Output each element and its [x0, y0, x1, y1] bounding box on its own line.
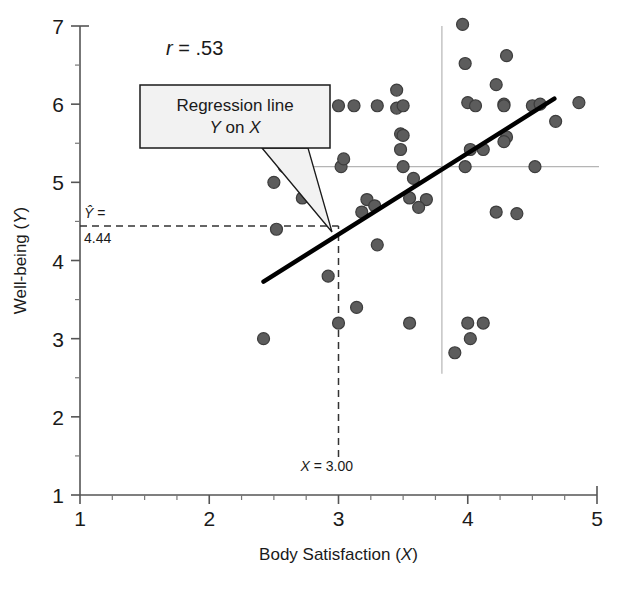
- callout-box: [140, 85, 330, 148]
- callout-label-line2: Y on X: [209, 118, 261, 137]
- data-point: [413, 201, 425, 213]
- scatter-plot: 123451234567Body Satisfaction (X)Well-be…: [0, 0, 625, 589]
- data-point: [348, 100, 360, 112]
- data-point: [322, 270, 334, 282]
- data-point: [470, 100, 482, 112]
- y-tick-label-3: 3: [52, 328, 64, 351]
- figure-container: 123451234567Body Satisfaction (X)Well-be…: [0, 0, 625, 589]
- data-point: [449, 347, 461, 359]
- callout-label-line1: Regression line: [176, 96, 293, 115]
- data-point: [498, 100, 510, 112]
- data-point: [397, 100, 409, 112]
- data-point: [397, 129, 409, 141]
- data-point: [351, 301, 363, 313]
- data-point: [511, 208, 523, 220]
- callout-pointer: [262, 148, 332, 232]
- x-tick-label-1: 1: [74, 507, 86, 530]
- y-tick-label-1: 1: [52, 484, 64, 507]
- correlation-label: r = .53: [166, 37, 223, 59]
- data-point: [404, 317, 416, 329]
- predicted-y-value-label: 4.44: [84, 230, 111, 246]
- x-axis-title: Body Satisfaction (X): [259, 545, 418, 564]
- x-tick-label-5: 5: [591, 507, 603, 530]
- y-tick-label-7: 7: [52, 15, 64, 38]
- data-point: [459, 161, 471, 173]
- data-point: [459, 58, 471, 70]
- data-point: [490, 79, 502, 91]
- data-point: [371, 239, 383, 251]
- data-point: [501, 50, 513, 62]
- data-point: [498, 136, 510, 148]
- data-point: [338, 153, 350, 165]
- data-point: [333, 100, 345, 112]
- y-tick-label-4: 4: [52, 250, 64, 273]
- x-axis-variable: X: [400, 545, 413, 564]
- correlation-symbol: r: [166, 37, 174, 59]
- x-tick-label-4: 4: [462, 507, 474, 530]
- data-point: [395, 144, 407, 156]
- data-point: [573, 97, 585, 109]
- data-point: [371, 100, 383, 112]
- data-point: [477, 317, 489, 329]
- given-x-label: X = 3.00: [300, 458, 354, 474]
- data-point: [462, 317, 474, 329]
- y-axis-title: Well-being (Y): [11, 207, 30, 314]
- data-point: [258, 333, 270, 345]
- data-point: [490, 206, 502, 218]
- data-point: [268, 176, 280, 188]
- data-point: [529, 161, 541, 173]
- y-tick-label-5: 5: [52, 171, 64, 194]
- data-point: [397, 161, 409, 173]
- data-point: [270, 223, 282, 235]
- data-point: [391, 84, 403, 96]
- y-tick-label-6: 6: [52, 93, 64, 116]
- data-point: [333, 317, 345, 329]
- data-point: [457, 18, 469, 30]
- y-tick-label-2: 2: [52, 406, 64, 429]
- data-point: [464, 333, 476, 345]
- y-axis-variable: Y: [11, 211, 30, 224]
- x-tick-label-2: 2: [203, 507, 215, 530]
- x-tick-label-3: 3: [333, 507, 345, 530]
- data-point: [550, 115, 562, 127]
- predicted-y-symbol-label: Ŷ =: [84, 205, 105, 221]
